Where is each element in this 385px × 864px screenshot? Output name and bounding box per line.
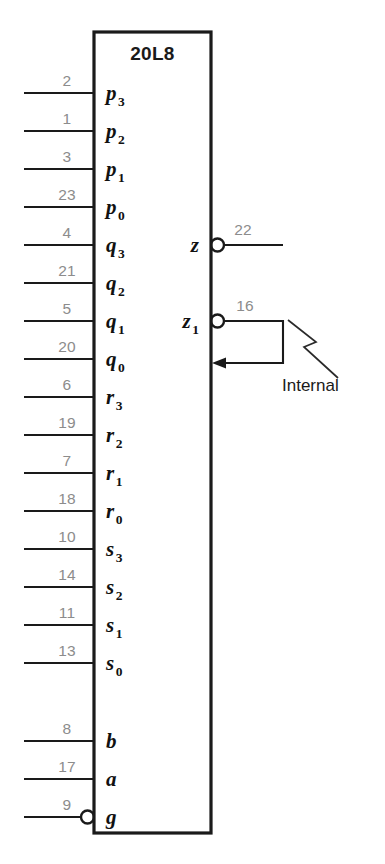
input-pin-number: 4 [63, 224, 72, 241]
input-pin-number: 10 [58, 528, 76, 545]
input-pin-number: 1 [63, 110, 72, 127]
input-pin-number: 2 [63, 72, 72, 89]
input-inversion-bubble-icon [81, 811, 94, 824]
output-inversion-bubble-icon [211, 239, 224, 252]
internal-annotation-label: Internal [282, 376, 339, 395]
input-pin-number: 23 [58, 186, 76, 203]
internal-leader-line [288, 320, 338, 378]
annotation-layer: Internal [282, 320, 339, 395]
input-pin-number: 19 [58, 414, 76, 431]
input-pin-number: 17 [58, 758, 76, 775]
input-signal-label: b [106, 729, 117, 753]
input-pin-number: 7 [63, 452, 72, 469]
input-pin-number: 9 [63, 796, 72, 813]
feedback-arrow-icon [212, 358, 226, 369]
input-pin-number: 14 [58, 566, 76, 583]
input-pin-number: 3 [63, 148, 72, 165]
output-pin-number: 16 [236, 297, 254, 314]
input-signal-label: g [105, 805, 117, 829]
input-pin-number: 11 [59, 604, 76, 621]
input-pin-number: 21 [58, 262, 76, 279]
input-pin-number: 18 [58, 490, 76, 507]
chip-part-number-label: 20L8 [130, 43, 175, 64]
input-pin-number: 13 [58, 642, 76, 659]
output-pin-number: 22 [234, 221, 252, 238]
output-inversion-bubble-icon [211, 315, 224, 328]
input-pin-number: 20 [58, 338, 76, 355]
feedback-loop-line [224, 321, 283, 363]
input-pin-number: 5 [63, 300, 72, 317]
input-signal-label: a [106, 767, 117, 791]
chip-pinout-diagram: 20L8 2p31p23p123p04q321q25q120q06r319r27… [0, 0, 385, 864]
input-pin-number: 8 [63, 720, 72, 737]
input-pin-number: 6 [63, 376, 72, 393]
output-signal-label: z [190, 233, 200, 257]
